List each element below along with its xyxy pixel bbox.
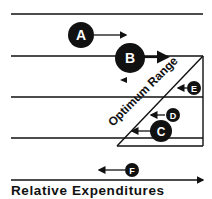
node-e: E xyxy=(178,81,201,95)
node-c-label: C xyxy=(157,125,166,139)
node-a-label: A xyxy=(76,27,86,43)
node-e-label: E xyxy=(191,84,197,94)
node-d: D xyxy=(151,108,180,122)
node-d-label: D xyxy=(170,111,177,121)
range-arrowhead-icon xyxy=(120,77,127,83)
node-a: A xyxy=(68,22,126,48)
diagram-canvas: Optimum Range A B E D C F Relative Expen… xyxy=(0,0,212,199)
node-b-label: B xyxy=(125,50,135,66)
axis-label: Relative Expenditures xyxy=(11,183,165,198)
node-f-label: F xyxy=(129,166,135,176)
node-f: F xyxy=(99,163,139,177)
